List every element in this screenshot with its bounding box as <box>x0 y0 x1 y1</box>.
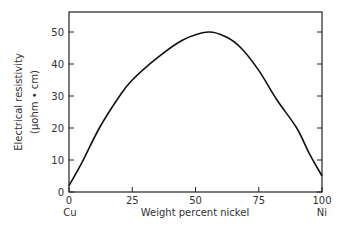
x-tick-label: 75 <box>252 195 265 206</box>
x-end-label-left: Cu <box>63 207 76 218</box>
x-tick-label: 0 <box>66 195 72 206</box>
plot-frame <box>69 12 322 192</box>
x-tick-label: 50 <box>189 195 202 206</box>
x-tick-label: 100 <box>312 195 331 206</box>
chart: 025507510001020304050 Cu Ni Weight perce… <box>0 0 342 235</box>
x-axis-label: Weight percent nickel <box>141 207 249 218</box>
y-axis-label: Electrical resistivity <box>13 53 24 151</box>
resistivity-curve <box>69 32 322 186</box>
x-tick-label: 25 <box>126 195 139 206</box>
y-tick-label: 0 <box>58 187 64 198</box>
y-tick-label: 30 <box>51 91 64 102</box>
y-tick-label: 50 <box>51 27 64 38</box>
y-tick-label: 40 <box>51 59 64 70</box>
axis-ticks <box>69 32 322 192</box>
y-tick-label: 20 <box>51 123 64 134</box>
y-tick-label: 10 <box>51 155 64 166</box>
y-axis-units: (μohm • cm) <box>29 70 40 134</box>
x-end-label-right: Ni <box>317 207 327 218</box>
